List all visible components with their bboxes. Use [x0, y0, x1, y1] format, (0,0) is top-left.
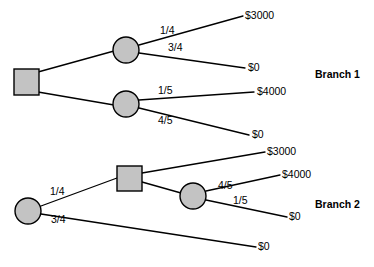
node-b2-chance [180, 183, 206, 209]
label-b1-bottom-payoff-upper: $4000 [257, 86, 286, 97]
label-b1-bottom-payoff-lower: $0 [252, 129, 264, 140]
edge-b1-top-payoff-3000 [139, 16, 243, 45]
node-b1-top-chance [113, 37, 139, 63]
edge-b2-decision-payoff-3000 [142, 152, 265, 173]
label-b2-chance-prob-lower: 1/5 [233, 195, 248, 206]
edge-b1-bottom-payoff-0 [139, 108, 249, 135]
tree-graphics [0, 0, 374, 267]
label-branch-1: Branch 1 [315, 69, 360, 80]
edge-b1-bottom-payoff-4000 [139, 92, 254, 100]
node-b1-root-decision [14, 69, 39, 95]
label-b1-top-prob-lower: 3/4 [168, 42, 183, 53]
label-b1-top-payoff-lower: $0 [248, 62, 260, 73]
edge-b2-decision-to-chance [142, 182, 181, 193]
label-b1-top-prob-upper: 1/4 [160, 25, 175, 36]
label-b2-chance-payoff-upper: $4000 [282, 169, 311, 180]
label-b2-decision-payoff-3000: $3000 [267, 146, 296, 157]
node-b2-decision [117, 166, 142, 191]
label-b1-top-payoff-upper: $3000 [245, 10, 274, 21]
label-b1-bottom-prob-lower: 4/5 [158, 115, 173, 126]
label-branch-2: Branch 2 [315, 199, 360, 210]
node-b2-root-chance [15, 198, 41, 224]
node-b1-bottom-chance [113, 91, 139, 117]
edge-b1-root-to-bottom-chance [38, 92, 114, 105]
label-b2-chance-prob-upper: 4/5 [218, 180, 233, 191]
label-b2-root-payoff-lower: $0 [258, 241, 270, 252]
edge-b2-root-payoff-0 [41, 214, 256, 247]
edge-b1-top-payoff-0 [139, 53, 245, 68]
decision-tree-diagram: 1/4 3/4 $3000 $0 1/5 4/5 $4000 $0 Branch… [0, 0, 374, 267]
label-b2-root-prob-upper: 1/4 [50, 186, 65, 197]
label-b1-bottom-prob-upper: 1/5 [158, 85, 173, 96]
label-b2-chance-payoff-lower: $0 [289, 211, 301, 222]
edge-b1-root-to-top-chance [38, 51, 114, 72]
label-b2-root-prob-lower: 3/4 [51, 214, 66, 225]
